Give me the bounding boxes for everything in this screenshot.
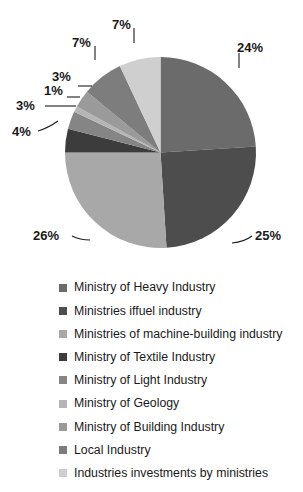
- legend-swatch-icon: [59, 469, 67, 477]
- legend-swatch-icon: [59, 284, 67, 292]
- slice-data-label-local-industry: 7%: [72, 36, 91, 49]
- legend-item[interactable]: Ministry of Light Industry: [59, 369, 303, 392]
- pie-slice[interactable]: [161, 147, 256, 248]
- slice-data-label-building-industry: 3%: [52, 70, 71, 83]
- legend-item-label: Ministry of Light Industry: [74, 374, 207, 386]
- legend-swatch-icon: [59, 423, 67, 431]
- slice-data-label-geology: 1%: [44, 84, 63, 97]
- legend-item[interactable]: Local Industry: [59, 438, 303, 461]
- legend-item[interactable]: Ministry of Heavy Industry: [59, 276, 303, 299]
- legend-swatch-icon: [59, 446, 67, 454]
- legend-swatch-icon: [59, 353, 67, 361]
- pie-plot-area: 24% 25% 26% 4% 3% 1% 3% 7% 7%: [0, 0, 303, 278]
- slice-data-label-investments-by-ministries: 7%: [112, 18, 131, 31]
- legend-item[interactable]: Ministry of Geology: [59, 392, 303, 415]
- legend-swatch-icon: [59, 376, 67, 384]
- slice-data-label-heavy-industry: 24%: [237, 41, 263, 54]
- leader-line-4: [38, 121, 58, 131]
- legend-item[interactable]: Industries investments by ministries: [59, 462, 303, 485]
- slice-data-label-fuel-industry: 25%: [255, 229, 281, 242]
- legend-swatch-icon: [59, 330, 67, 338]
- legend-item[interactable]: Ministry of Textile Industry: [59, 346, 303, 369]
- legend-item-label: Ministry of Geology: [74, 397, 179, 409]
- legend-item[interactable]: Ministries of machine-building industry: [59, 322, 303, 345]
- legend-item-label: Ministries iffuel industry: [74, 305, 202, 317]
- legend-item-label: Industries investments by ministries: [74, 467, 268, 479]
- slice-data-label-machine-building: 26%: [33, 229, 59, 242]
- legend-item[interactable]: Ministries iffuel industry: [59, 299, 303, 322]
- pie-slice[interactable]: [65, 153, 167, 248]
- pie-chart-figure: 24% 25% 26% 4% 3% 1% 3% 7% 7% Ministry o…: [0, 0, 303, 492]
- legend-swatch-icon: [59, 307, 67, 315]
- slice-data-label-light-industry: 3%: [16, 99, 35, 112]
- legend-swatch-icon: [59, 400, 67, 408]
- pie-slice[interactable]: [161, 57, 256, 153]
- legend-item-label: Ministry of Heavy Industry: [74, 281, 215, 293]
- slice-data-label-textile-industry: 4%: [12, 125, 31, 138]
- legend-item-label: Local Industry: [74, 444, 151, 456]
- legend-item-label: Ministry of Building Industry: [74, 421, 224, 433]
- chart-legend: Ministry of Heavy IndustryMinistries iff…: [0, 276, 303, 485]
- pie-slice-group: [65, 57, 256, 248]
- legend-item[interactable]: Ministry of Building Industry: [59, 415, 303, 438]
- legend-item-label: Ministries of machine-building industry: [74, 328, 282, 340]
- leader-line-25: [232, 236, 252, 243]
- leader-line-26: [72, 236, 90, 240]
- legend-item-label: Ministry of Textile Industry: [74, 351, 215, 363]
